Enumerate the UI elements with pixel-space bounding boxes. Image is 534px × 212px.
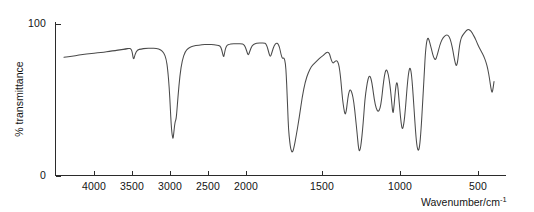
x-tick-label-4000: 4000 <box>82 180 106 192</box>
plot-axes <box>56 22 507 177</box>
x-axis-title-main: Wavenumber/cm <box>421 196 500 208</box>
ir-spectrum-figure: 4000 3500 3000 2500 2000 1500 1000 500 1… <box>0 0 534 212</box>
x-tick-label-2000: 2000 <box>234 180 258 192</box>
spectrum-canvas: 4000 3500 3000 2500 2000 1500 1000 500 1… <box>0 0 534 212</box>
y-tick-label-0: 0 <box>40 169 46 181</box>
x-tick-label-2500: 2500 <box>196 180 220 192</box>
y-axis-title: % transmittance <box>13 61 25 136</box>
x-tick-label-500: 500 <box>469 180 487 192</box>
x-tick-label-3000: 3000 <box>158 180 182 192</box>
x-axis-title: Wavenumber/cm-1 <box>421 195 507 208</box>
x-tick-label-1000: 1000 <box>388 180 412 192</box>
x-tick-label-1500: 1500 <box>310 180 334 192</box>
x-axis-title-exponent: -1 <box>500 195 507 204</box>
x-tick-label-3500: 3500 <box>120 180 144 192</box>
y-tick-label-100: 100 <box>28 17 46 29</box>
y-axis-tick-marks <box>56 25 62 177</box>
spectrum-trace-group <box>64 29 494 151</box>
x-axis-tick-marks <box>95 171 479 176</box>
spectrum-trace <box>64 29 494 151</box>
